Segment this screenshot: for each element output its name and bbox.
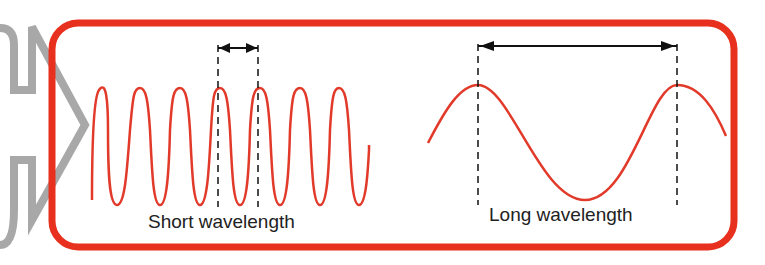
long-wavelength-label: Long wavelength: [489, 204, 633, 225]
long-wave: [428, 85, 726, 200]
short-double-arrow-icon: [218, 43, 258, 53]
long-double-arrow-icon: [478, 41, 677, 51]
short-wave: [92, 87, 369, 205]
gray-connector-arrow-icon: [0, 27, 85, 245]
short-wavelength-label: Short wavelength: [148, 211, 295, 232]
wavelength-diagram: Short wavelength Long wavelength: [0, 0, 765, 265]
